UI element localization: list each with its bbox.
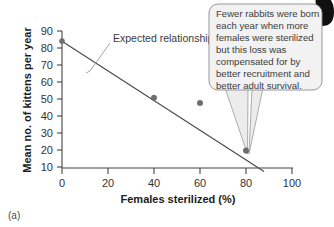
scatter-chart: 90 80 70 60 50 40 30 20 10 0 20 40 60 80… (0, 0, 334, 227)
callout-line: better recruitment and (216, 68, 310, 79)
data-point (197, 100, 203, 106)
y-tick-label: 40 (41, 110, 53, 122)
y-axis-title: Mean no. of kittens per year (21, 27, 33, 173)
x-axis-ticks (62, 168, 292, 174)
x-axis-title: Females sterilized (%) (121, 193, 236, 205)
y-tick-label: 80 (41, 42, 53, 54)
x-tick-label: 20 (102, 177, 114, 189)
y-tick-label: 60 (41, 76, 53, 88)
callout-line: Fewer rabbits were born (216, 8, 319, 19)
x-tick-label: 80 (240, 177, 252, 189)
y-tick-label: 70 (41, 59, 53, 71)
callout-line: compensated for by (216, 56, 300, 67)
y-tick-label: 20 (41, 144, 53, 156)
x-tick-label: 60 (194, 177, 206, 189)
callout-tail-secondary (249, 88, 263, 154)
data-point (59, 38, 64, 43)
y-tick-label: 30 (41, 127, 53, 139)
callout-line: each year when more (216, 20, 308, 31)
y-tick-label: 10 (41, 161, 53, 173)
data-point (243, 148, 249, 154)
x-tick-label: 100 (283, 177, 301, 189)
callout-line: but this loss was (216, 44, 287, 55)
callout-line: better adult survival. (216, 80, 302, 91)
y-axis-ticks (57, 31, 62, 167)
annotation-leader-line (86, 43, 110, 73)
x-tick-label: 0 (59, 177, 65, 189)
expected-relationship-label: Expected relationship (113, 32, 214, 44)
y-tick-label: 90 (41, 25, 53, 37)
x-tick-label: 40 (148, 177, 160, 189)
y-tick-label: 50 (41, 93, 53, 105)
callout-tail (225, 88, 248, 154)
data-point (151, 95, 157, 101)
figure-panel: 90 80 70 60 50 40 30 20 10 0 20 40 60 80… (0, 0, 334, 227)
callout-line: females were sterilized (216, 32, 314, 43)
figure-caption: (a) (8, 210, 20, 221)
